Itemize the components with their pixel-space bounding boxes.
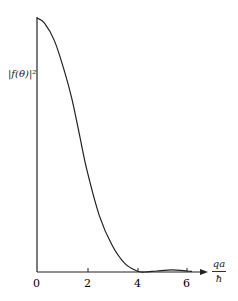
- x-axis-label-denominator: ħ: [216, 273, 222, 284]
- x-tick-label-4: 4: [134, 277, 141, 290]
- chart-plot-area: 0 2 4 6: [0, 0, 238, 301]
- y-axis-label: |f(θ)|²: [8, 68, 36, 79]
- x-tick-label-2: 2: [84, 277, 91, 290]
- x-axis-label: qa ħ: [212, 258, 226, 285]
- x-axis-label-numerator: qa: [213, 258, 225, 269]
- x-axis-arrow-icon: [200, 269, 208, 275]
- x-tick-label-6: 6: [183, 277, 190, 290]
- x-tick-label-0: 0: [33, 277, 40, 290]
- fraction-bar: [212, 271, 226, 272]
- data-curve: [37, 18, 192, 272]
